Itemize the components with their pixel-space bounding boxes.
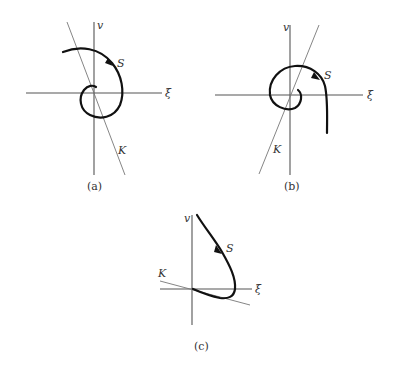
- panel-caption: (a): [87, 180, 102, 193]
- k-label: K: [272, 143, 282, 156]
- panel-caption: (c): [194, 340, 209, 353]
- v-axis-label: v: [184, 212, 191, 225]
- s-label: S: [324, 69, 332, 82]
- panel-a: v ξ S K (a): [26, 19, 172, 193]
- k-line: [67, 22, 125, 175]
- panel-b: v ξ S K (b): [215, 21, 374, 193]
- k-label: K: [117, 144, 127, 157]
- s-label: S: [117, 57, 125, 70]
- v-axis-label: v: [283, 21, 290, 34]
- panel-caption: (b): [284, 180, 300, 193]
- xi-axis-label: ξ: [367, 89, 374, 102]
- trajectory-s: [63, 48, 122, 117]
- xi-axis-label: ξ: [255, 283, 262, 296]
- phase-plane-figure: v ξ S K (a) v ξ S K (b) v ξ S K (c): [0, 0, 400, 366]
- k-line: [259, 25, 319, 174]
- xi-axis-label: ξ: [165, 87, 172, 100]
- k-label: K: [157, 267, 167, 280]
- panel-c: v ξ S K (c): [157, 212, 262, 353]
- trajectory-s: [193, 215, 235, 298]
- v-axis-label: v: [97, 19, 104, 32]
- s-label: S: [226, 242, 234, 255]
